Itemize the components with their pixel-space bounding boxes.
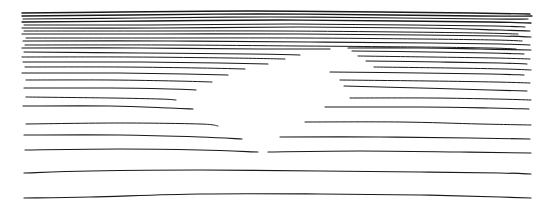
sketch-canvas xyxy=(0,0,552,211)
hand-drawn-stroke-sketch xyxy=(0,0,552,211)
